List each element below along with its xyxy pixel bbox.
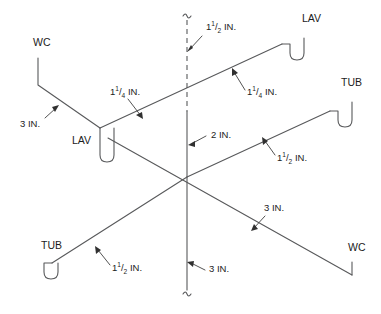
- fixture-label-wc-upper-left: WC: [33, 36, 51, 48]
- leader-wc-upper: [45, 105, 59, 118]
- size-label-vent-middle: 2 IN.: [211, 129, 231, 140]
- leader-line-lav-right: [234, 72, 245, 90]
- arrow-head-lav-right: [232, 68, 238, 76]
- leader-lav-right: [232, 68, 245, 90]
- leader-vent-stack: [187, 36, 202, 52]
- fixture-label-tub-right: TUB: [341, 76, 362, 88]
- fixture-label-lav-left: LAV: [72, 134, 91, 146]
- size-unit-soil-stack: IN.: [217, 263, 229, 274]
- size-unit-tub-left: IN.: [130, 262, 142, 273]
- size-unit-vent-stack: IN.: [224, 21, 236, 32]
- lav-upper-branch-group: [100, 38, 304, 162]
- size-unit-lav-right: IN.: [265, 86, 277, 97]
- wc-main-diagonal-pipe: [108, 138, 352, 275]
- size-unit-tub-right: IN.: [295, 152, 307, 163]
- plumbing-isometric-diagram: WC LAV TUB LAV TUB WC 11/2 IN. 11/4 IN. …: [0, 0, 381, 314]
- leader-soil-stack: [187, 261, 205, 270]
- size-unit-wc-upper: IN.: [28, 118, 40, 129]
- leader-line-tub-left: [98, 250, 110, 265]
- tub-left-branch-pipe: [52, 177, 187, 263]
- arrow-head-vent: [187, 45, 193, 52]
- wc-upper-left-group: [38, 58, 100, 128]
- size-label-tub-left: 11/2 IN.: [112, 261, 142, 275]
- leader-vent-middle: [188, 136, 206, 147]
- size-label-wc-upper: 3 IN.: [20, 118, 40, 129]
- tub-right-branch-pipe: [187, 111, 330, 177]
- size-label-tub-right: 11/2 IN.: [277, 151, 307, 165]
- isometric-drawing-canvas: WC LAV TUB LAV TUB WC 11/2 IN. 11/4 IN. …: [0, 0, 381, 314]
- arrow-head-soil-stack: [187, 261, 194, 267]
- fixture-label-tub-lower-left: TUB: [41, 239, 62, 251]
- size-label-lav-right: 11/4 IN.: [247, 85, 277, 99]
- fixture-label-wc-lower-right: WC: [348, 241, 366, 253]
- leader-line-lav-left: [128, 99, 141, 116]
- tub-left-trap-icon: [44, 263, 58, 279]
- arrow-head-lav-left: [136, 112, 143, 119]
- lav-right-trap-icon: [282, 38, 304, 60]
- size-label-lav-left: 11/4 IN.: [110, 85, 140, 99]
- wc-upper-drop-pipe: [38, 58, 100, 128]
- lav-left-trap-icon: [100, 128, 114, 162]
- soil-break-symbol-icon: [183, 292, 191, 296]
- tub-right-trap-icon: [330, 102, 352, 127]
- leader-wc-lower: [251, 216, 265, 231]
- vent-break-symbol-icon: [183, 14, 191, 18]
- fixture-label-lav-upper-right: LAV: [302, 12, 321, 24]
- size-label-vent-stack: 11/2 IN.: [206, 20, 236, 34]
- leader-line-tub-right: [265, 141, 275, 155]
- size-unit-wc-lower: IN.: [272, 202, 284, 213]
- size-unit-lav-left: IN.: [128, 86, 140, 97]
- soil-stack-group: [183, 112, 191, 296]
- wc-lower-right-group: [108, 138, 352, 275]
- size-label-wc-lower: 3 IN.: [264, 202, 284, 213]
- size-label-soil-stack: 3 IN.: [209, 263, 229, 274]
- size-unit-vent-middle: IN.: [219, 129, 231, 140]
- leader-line-soil-stack: [193, 264, 205, 270]
- leader-tub-left: [95, 246, 110, 265]
- arrow-head-vent-middle: [188, 141, 195, 147]
- vent-stack-group: [183, 14, 191, 112]
